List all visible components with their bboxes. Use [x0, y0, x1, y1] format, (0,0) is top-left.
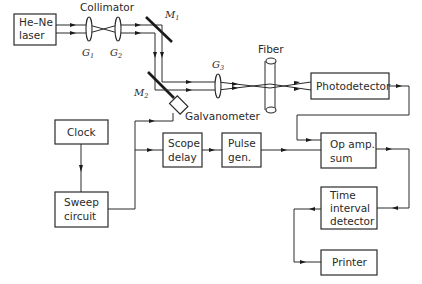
- scope-to-pulse-wire: [202, 148, 222, 152]
- laser-block: He–Ne laser: [14, 14, 56, 45]
- opamp-to-timer-wire: [376, 147, 409, 210]
- svg-text:Op amp.: Op amp.: [330, 138, 375, 150]
- svg-text:G2: G2: [110, 47, 122, 60]
- photodetector-block: Photodetector: [311, 73, 391, 99]
- laser-beams: [56, 23, 162, 35]
- svg-text:Fiber: Fiber: [258, 43, 284, 55]
- printer-block: Printer: [321, 250, 377, 275]
- svg-text:M2: M2: [133, 87, 148, 100]
- collimator-label: Collimator: [80, 1, 135, 13]
- time-interval-detector-block: Time interval detector: [321, 187, 377, 229]
- svg-text:Photodetector: Photodetector: [316, 80, 391, 92]
- fiber-beams: [155, 80, 311, 92]
- svg-text:detector: detector: [330, 215, 375, 227]
- lens-g1: G1: [82, 17, 94, 60]
- svg-text:sum: sum: [330, 152, 352, 164]
- galvanometer: Galvanometer: [170, 96, 261, 122]
- scope-delay-block: Scope delay: [163, 133, 202, 167]
- svg-text:delay: delay: [168, 151, 197, 163]
- svg-text:Sweep: Sweep: [64, 196, 99, 208]
- svg-text:Printer: Printer: [332, 256, 368, 268]
- svg-text:gen.: gen.: [228, 151, 251, 163]
- svg-text:G1: G1: [82, 47, 94, 60]
- svg-text:M1: M1: [164, 9, 179, 22]
- svg-text:laser: laser: [19, 29, 45, 41]
- svg-text:Time: Time: [329, 189, 356, 201]
- sweep-circuit-block: Sweep circuit: [55, 192, 108, 227]
- optical-setup-diagram: He–Ne laser Collimator G1 G2 M1: [0, 0, 422, 284]
- pulse-to-opamp-wire: [261, 148, 321, 152]
- pulse-gen-block: Pulse gen.: [222, 133, 261, 167]
- svg-text:Scope: Scope: [168, 137, 200, 149]
- svg-text:Pulse: Pulse: [228, 137, 256, 149]
- lens-g2: G2: [110, 17, 122, 60]
- timer-to-printer-wire: [294, 207, 321, 264]
- svg-text:He–Ne: He–Ne: [19, 16, 53, 28]
- op-amp-sum-block: Op amp. sum: [321, 133, 376, 168]
- svg-text:circuit: circuit: [64, 210, 96, 222]
- svg-text:Galvanometer: Galvanometer: [185, 110, 260, 122]
- svg-text:Clock: Clock: [67, 126, 96, 138]
- clock-block: Clock: [55, 120, 108, 144]
- mirror-m2: M2: [133, 72, 174, 100]
- clock-to-sweep-wire: [79, 144, 83, 192]
- svg-text:G3: G3: [212, 59, 224, 72]
- fiber: Fiber: [258, 43, 284, 113]
- lens-g3: G3: [212, 59, 224, 98]
- svg-text:interval: interval: [330, 202, 370, 214]
